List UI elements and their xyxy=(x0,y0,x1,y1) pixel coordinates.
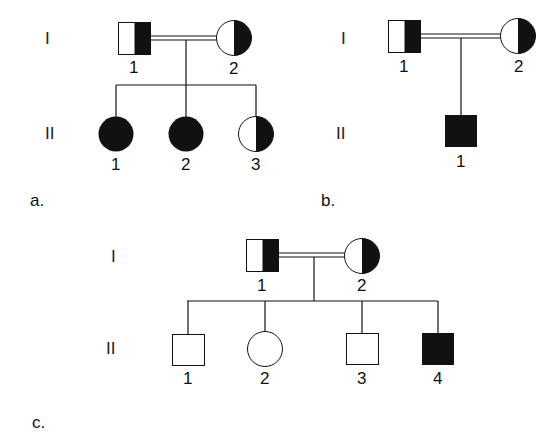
affected-male-symbol xyxy=(445,115,477,147)
pedigree-a: I II 1 2 1 2 xyxy=(30,21,274,211)
carrier-male-symbol xyxy=(389,21,421,53)
generation-label-ii: II xyxy=(336,124,345,143)
generation-label-i: I xyxy=(111,247,116,266)
generation-label-i: I xyxy=(341,29,346,48)
affected-male-symbol xyxy=(422,333,454,365)
generation-label-i: I xyxy=(45,29,50,48)
individual-label: 2 xyxy=(260,369,269,388)
individual-label: 1 xyxy=(399,57,408,76)
individual-label: 3 xyxy=(357,369,366,388)
individual-label: 3 xyxy=(251,155,260,174)
consanguineous-mating-line xyxy=(151,36,217,40)
panel-label-c: c. xyxy=(32,413,45,432)
pedigree-b: I II 1 2 1 b. xyxy=(321,19,536,211)
affected-female-symbol xyxy=(169,117,204,152)
carrier-female-symbol xyxy=(239,117,274,152)
carrier-female-symbol xyxy=(345,239,380,274)
individual-label: 1 xyxy=(456,152,465,171)
carrier-female-symbol xyxy=(501,19,536,54)
panel-label-a: a. xyxy=(30,191,44,210)
consanguineous-mating-line xyxy=(421,34,501,38)
individual-label: 1 xyxy=(129,58,138,77)
individual-label: 2 xyxy=(229,59,238,78)
individual-label: 1 xyxy=(111,155,120,174)
unaffected-male-symbol xyxy=(173,335,205,366)
pedigree-c: I II 1 2 1 2 3 4 c. xyxy=(32,239,454,432)
pedigree-figure: I II 1 2 1 2 xyxy=(0,0,560,432)
individual-label: 1 xyxy=(183,369,192,388)
consanguineous-mating-line xyxy=(279,253,345,257)
unaffected-male-symbol xyxy=(347,334,379,365)
individual-label: 2 xyxy=(514,57,523,76)
individual-label: 2 xyxy=(181,155,190,174)
affected-female-symbol xyxy=(99,117,134,152)
carrier-male-symbol xyxy=(247,240,279,272)
individual-label: 2 xyxy=(357,276,366,295)
carrier-female-symbol xyxy=(217,21,252,56)
generation-label-ii: II xyxy=(106,339,115,358)
panel-label-b: b. xyxy=(321,191,335,210)
unaffected-female-symbol xyxy=(248,332,283,367)
individual-label: 4 xyxy=(433,369,442,388)
generation-label-ii: II xyxy=(45,124,54,143)
carrier-male-symbol xyxy=(119,23,151,55)
individual-label: 1 xyxy=(257,276,266,295)
